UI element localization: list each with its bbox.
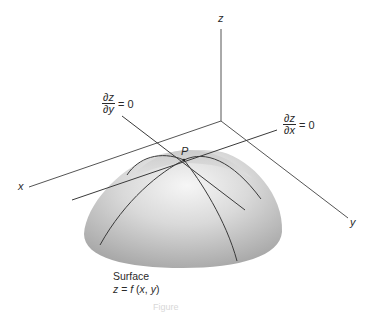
surface-caption-title: Surface	[113, 270, 159, 283]
equals-zero: = 0	[118, 98, 134, 110]
surface-dome	[84, 150, 282, 268]
surface-caption: Surface z = f (x, y)	[113, 270, 159, 296]
z-axis-label: z	[218, 12, 224, 24]
eq-equals: =	[118, 283, 130, 295]
partial-dz-dy-label: ∂z ∂y = 0	[102, 92, 134, 115]
dz-dx-denominator: ∂x	[284, 125, 295, 136]
denominator-variable: y	[108, 103, 114, 115]
surface-diagram: z x y P ∂z ∂y = 0 ∂z ∂x = 0 Surface z = …	[0, 0, 370, 312]
numerator-variable: z	[108, 91, 114, 103]
figure-caption: Figure	[153, 302, 179, 312]
dz-dy-denominator: ∂y	[103, 104, 114, 115]
equals-zero: = 0	[299, 119, 315, 131]
partial-dz-dx-label: ∂z ∂x = 0	[283, 113, 315, 136]
numerator-variable: z	[289, 112, 295, 124]
y-axis-label: y	[350, 216, 356, 228]
surface-equation: z = f (x, y)	[113, 283, 159, 296]
point-p-marker	[183, 159, 185, 161]
denominator-variable: x	[289, 124, 295, 136]
point-p-label: P	[181, 145, 188, 157]
eq-paren-close: )	[156, 283, 160, 295]
x-axis-label: x	[18, 180, 24, 192]
